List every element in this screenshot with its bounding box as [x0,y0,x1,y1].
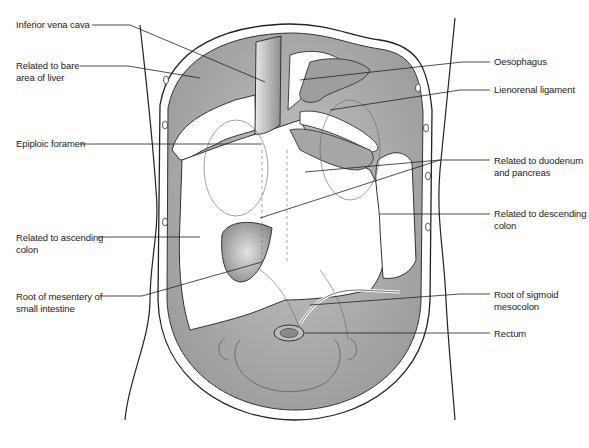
label-ascending-colon: Related to ascending colon [16,232,103,256]
label-root-of-mesentery: Root of mesentery of small intestine [16,291,102,315]
label-rectum: Rectum [494,328,526,340]
anatomy-diagram: Inferior vena cava Related to bare area … [0,0,589,448]
label-bare-area-of-liver: Related to bare area of liver [16,60,79,84]
label-lienorenal-ligament: Lienorenal ligament [494,84,575,96]
label-duodenum-and-pancreas: Related to duodenum and pancreas [494,155,583,179]
body-outline-right [439,18,455,420]
descending-colon-area [376,153,416,279]
label-epiploic-foramen: Epiploic foramen [16,138,85,150]
label-root-of-sigmoid-mesocolon: Root of sigmoid mesocolon [494,289,559,313]
label-inferior-vena-cava: Inferior vena cava [16,19,90,31]
label-oesophagus: Oesophagus [494,56,547,68]
inferior-vena-cava [255,36,281,134]
body-outline-left [125,25,157,420]
label-descending-colon: Related to descending colon [494,208,586,232]
